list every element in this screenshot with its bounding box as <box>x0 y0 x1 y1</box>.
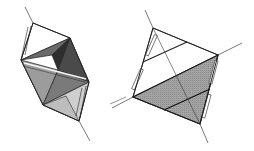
polyhedra-figure <box>0 0 254 151</box>
right-polyhedron <box>112 10 242 143</box>
right-axis-top <box>145 10 153 28</box>
right-axis-bottom <box>200 124 208 143</box>
left-axis-top <box>25 7 33 23</box>
left-axis-bottom <box>79 121 90 141</box>
left-polyhedron <box>21 7 126 141</box>
right-axis-right <box>218 43 242 55</box>
left-axis-side-mark <box>110 97 126 104</box>
